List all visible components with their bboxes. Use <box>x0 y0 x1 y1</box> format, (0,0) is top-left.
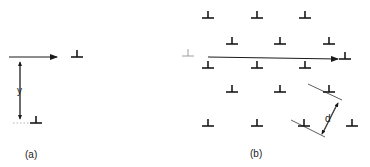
ghost-dislocation-symbol <box>182 49 194 56</box>
dislocation-symbol <box>71 50 83 57</box>
dislocation-symbol <box>202 11 214 18</box>
dislocation-symbol <box>323 37 335 44</box>
dislocation-symbol <box>251 61 263 68</box>
dislocation-symbol <box>298 119 310 126</box>
dislocation-symbol <box>323 85 335 92</box>
dislocation-symbol <box>202 119 214 126</box>
dislocation-symbol <box>299 61 311 68</box>
burgers-arrow-b <box>208 57 338 59</box>
dislocation-symbol <box>339 52 351 59</box>
dislocation-symbol <box>202 61 214 68</box>
dimension-label-y: y <box>17 85 22 96</box>
panel-b: d (b) <box>182 11 358 159</box>
panel-a: y (a) <box>9 50 83 160</box>
caption-a: (a) <box>25 149 37 160</box>
dislocation-symbol <box>299 11 311 18</box>
dislocation-symbol <box>226 85 238 92</box>
dislocation-symbol <box>346 119 358 126</box>
diagram-svg: y (a) d (b) <box>0 0 370 167</box>
dislocation-symbol <box>251 119 263 126</box>
dimension-label-d: d <box>325 113 331 124</box>
dislocation-symbol <box>251 11 263 18</box>
dislocation-symbol <box>226 37 238 44</box>
dislocation-symbol <box>30 116 42 123</box>
caption-b: (b) <box>250 148 262 159</box>
dislocation-diagram: y (a) d (b) <box>0 0 370 167</box>
dislocation-symbol <box>274 85 286 92</box>
dislocation-symbol <box>274 37 286 44</box>
